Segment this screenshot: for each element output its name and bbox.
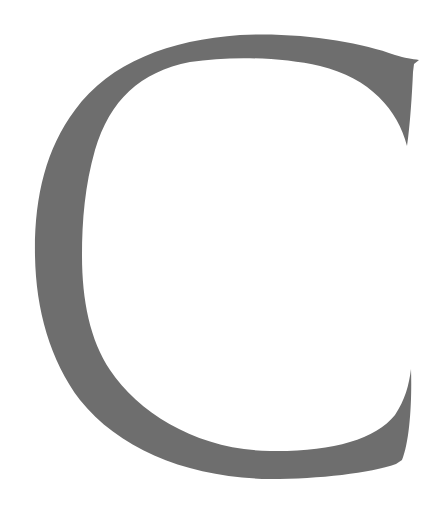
letter-c-shape	[0, 0, 446, 512]
